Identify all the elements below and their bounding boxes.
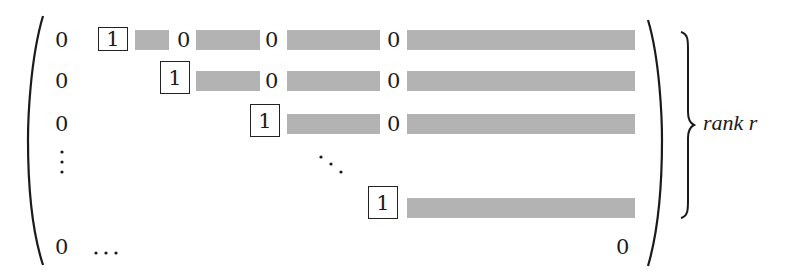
pivot-box-r: 1 [368,186,398,219]
arbitrary-block [407,198,635,218]
ddots-icon [319,155,342,173]
vdots-icon [60,150,63,173]
ellipsis-dots [0,0,798,276]
echelon-matrix-diagram: 0 1 0 0 0 0 1 0 0 0 1 0 1 [0,0,798,276]
cell-last-row-last: 0 [616,235,629,259]
rank-label: rank r [703,110,757,136]
hdots-icon [94,251,117,254]
cell-last-row-first: 0 [55,235,68,259]
